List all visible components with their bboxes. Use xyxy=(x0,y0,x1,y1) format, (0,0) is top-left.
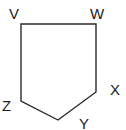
vertex-label-w: W xyxy=(90,5,105,22)
vertex-label-v: V xyxy=(9,5,19,22)
pentagon-shape xyxy=(21,24,96,120)
vertex-label-z: Z xyxy=(2,97,11,114)
pentagon-diagram: V W X Y Z xyxy=(0,0,126,130)
vertex-label-y: Y xyxy=(79,115,89,130)
vertex-label-x: X xyxy=(110,81,120,98)
